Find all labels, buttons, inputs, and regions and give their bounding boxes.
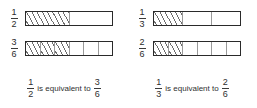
fraction-numerator: 1 — [138, 8, 145, 17]
bar-cell-empty — [198, 42, 213, 55]
fraction-numerator: 3 — [10, 38, 17, 47]
bar-model-three-sixths — [25, 41, 113, 56]
fraction-denominator: 2 — [27, 90, 34, 99]
caption-fraction-right: 3 6 — [94, 78, 101, 99]
fraction-numerator: 1 — [10, 8, 17, 17]
caption-fraction-right: 2 6 — [222, 78, 229, 99]
caption-half-three-sixths: 1 2 is equivalent to 3 6 — [0, 74, 128, 102]
fraction-denominator: 6 — [222, 90, 229, 99]
fraction-label-one-half: 1 2 — [6, 8, 22, 29]
caption-fraction-left: 1 2 — [27, 78, 34, 99]
bar-model-one-third — [153, 11, 241, 26]
fraction-label-two-sixths: 2 6 — [134, 38, 150, 59]
bar-model-one-half — [25, 11, 113, 26]
bar-cell-empty — [183, 42, 198, 55]
fraction-denominator: 6 — [138, 50, 145, 59]
caption-fraction-left: 1 3 — [155, 78, 162, 99]
bar-cell-empty — [70, 12, 113, 25]
fraction-numerator: 3 — [94, 78, 101, 87]
fraction-numerator: 1 — [27, 78, 34, 87]
bar-model-two-sixths — [153, 41, 241, 56]
fraction-denominator: 6 — [94, 90, 101, 99]
fraction-denominator: 6 — [10, 50, 17, 59]
bar-cell-shaded — [26, 12, 70, 25]
bar-cell-empty — [70, 42, 85, 55]
panel-half-three-sixths: 1 2 3 6 — [0, 0, 128, 108]
bar-cell-empty — [227, 42, 241, 55]
caption-words: is equivalent to — [37, 84, 90, 93]
fraction-denominator: 3 — [155, 90, 162, 99]
panel-third-two-sixths: 1 3 2 6 — [128, 0, 256, 108]
bar-row-one-half: 1 2 — [0, 5, 128, 31]
bar-row-three-sixths: 3 6 — [0, 35, 128, 61]
fraction-denominator: 3 — [138, 20, 145, 29]
fraction-label-three-sixths: 3 6 — [6, 38, 22, 59]
bar-cell-empty — [212, 12, 240, 25]
bar-cell-empty — [99, 42, 113, 55]
bar-row-one-third: 1 3 — [128, 5, 256, 31]
fraction-label-one-third: 1 3 — [134, 8, 150, 29]
bar-cell-shaded — [41, 42, 56, 55]
bar-cell-empty — [183, 12, 212, 25]
bar-cell-shaded — [169, 42, 184, 55]
bar-row-two-sixths: 2 6 — [128, 35, 256, 61]
bar-cell-empty — [212, 42, 227, 55]
caption-third-two-sixths: 1 3 is equivalent to 2 6 — [128, 74, 256, 102]
fraction-denominator: 2 — [10, 20, 17, 29]
fraction-numerator: 1 — [155, 78, 162, 87]
bar-cell-shaded — [154, 12, 183, 25]
caption-words: is equivalent to — [165, 84, 218, 93]
bar-cell-shaded — [55, 42, 70, 55]
fraction-numerator: 2 — [222, 78, 229, 87]
bar-cell-shaded — [26, 42, 41, 55]
bar-cell-shaded — [154, 42, 169, 55]
bar-cell-empty — [84, 42, 99, 55]
fraction-numerator: 2 — [138, 38, 145, 47]
fraction-equivalence-diagram: 1 2 3 6 — [0, 0, 257, 108]
